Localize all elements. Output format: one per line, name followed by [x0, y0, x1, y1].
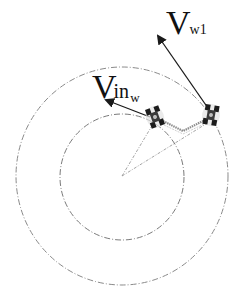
label-v-w1-subscript: w1 [190, 22, 207, 37]
radial-line-outer-robot [122, 122, 209, 176]
inner-circle [60, 114, 184, 240]
robot-inner-icon [143, 104, 167, 131]
robot-link [163, 120, 205, 131]
label-v-in-w-in: in [114, 80, 130, 102]
label-v-w1-main: V [166, 4, 191, 41]
label-v-in-w: Vinw [92, 70, 142, 104]
label-v-w1: Vw1 [166, 6, 208, 40]
label-v-in-w-subscript: w [130, 90, 139, 105]
formation-diagram [0, 0, 240, 300]
radial-line-inner-robot [122, 124, 153, 176]
velocity-arrow-vw1 [158, 36, 210, 111]
label-v-in-w-main: V [92, 68, 117, 105]
